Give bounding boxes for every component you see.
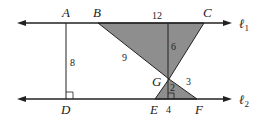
geometry-diagram: A B C D E F G ℓ1 ℓ2 12 9 6 8 2 3 4 (0, 0, 268, 122)
length-bg: 9 (122, 52, 127, 63)
triangle-bcg (98, 23, 204, 79)
label-l1: ℓ1 (239, 16, 249, 33)
arrow-right-icon (223, 96, 232, 102)
length-height-lower: 2 (170, 82, 175, 93)
right-angle-d-icon (66, 92, 73, 99)
label-f: F (194, 102, 204, 117)
label-b: B (93, 5, 101, 20)
length-ef: 4 (166, 104, 171, 115)
label-g: G (152, 74, 162, 89)
length-ad: 8 (70, 57, 75, 68)
label-c: C (203, 5, 212, 20)
label-a: A (61, 5, 70, 20)
length-bc: 12 (152, 10, 162, 21)
label-d: D (60, 102, 71, 117)
label-l2: ℓ2 (239, 92, 249, 109)
arrow-right-icon (223, 20, 232, 26)
length-gf: 3 (186, 76, 191, 87)
label-e: E (149, 102, 158, 117)
arrow-left-icon (17, 20, 26, 26)
length-height-upper: 6 (171, 41, 176, 52)
arrow-left-icon (17, 96, 26, 102)
